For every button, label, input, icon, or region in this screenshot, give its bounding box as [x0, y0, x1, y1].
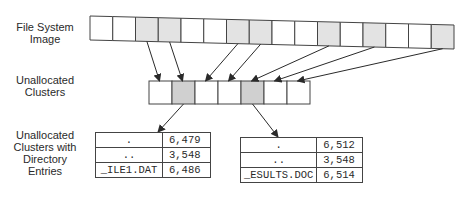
entry-cluster: 6,479 — [163, 133, 211, 148]
cluster-cell — [295, 21, 318, 46]
arrow — [229, 44, 261, 81]
cluster-cell-shaded — [227, 19, 250, 44]
cluster-cell — [386, 23, 409, 48]
entry-name: _ILE1.DAT — [96, 163, 163, 178]
cluster-diagram — [0, 0, 472, 208]
cluster-cell-shaded — [249, 20, 272, 45]
table-row: _ESULTS.DOC 6,514 — [241, 168, 363, 183]
cluster-cell-shaded — [318, 22, 341, 47]
cluster-cell-shaded — [363, 23, 386, 48]
cluster-cell — [272, 21, 295, 46]
file-system-image-strip — [90, 16, 454, 49]
unallocated-cell — [149, 81, 172, 104]
entry-cluster: 6,486 — [163, 163, 211, 178]
entry-cluster: 6,512 — [317, 138, 363, 153]
table-row: .. 3,548 — [241, 153, 363, 168]
entry-name: . — [96, 133, 163, 148]
entry-name: .. — [96, 148, 163, 163]
entry-name: .. — [241, 153, 317, 168]
table-row: . 6,512 — [241, 138, 363, 153]
unallocated-cell-shaded — [241, 81, 264, 104]
entry-name: . — [241, 138, 317, 153]
entry-cluster: 6,514 — [317, 168, 363, 183]
table-row: .. 3,548 — [96, 148, 211, 163]
unallocated-clusters-strip — [149, 81, 310, 104]
cluster-cell — [409, 24, 432, 49]
cluster-cell — [113, 17, 136, 42]
unallocated-cell-shaded — [172, 81, 195, 104]
directory-entries-table-2: . 6,512 .. 3,548 _ESULTS.DOC 6,514 — [240, 137, 363, 183]
cluster-cell — [181, 18, 204, 43]
directory-entries-table-1: . 6,479 .. 3,548 _ILE1.DAT 6,486 — [95, 132, 211, 178]
unallocated-cell — [218, 81, 241, 104]
cluster-cell — [90, 16, 113, 41]
arrow — [253, 104, 279, 137]
arrow — [170, 42, 183, 81]
unallocated-cell — [264, 81, 287, 104]
arrow — [298, 49, 443, 81]
cluster-cell-shaded — [158, 18, 181, 43]
arrow — [158, 104, 184, 132]
cluster-cell-shaded — [136, 17, 159, 42]
arrow — [147, 41, 160, 81]
unallocated-cell — [287, 81, 310, 104]
cluster-cell — [204, 19, 227, 44]
entry-name: _ESULTS.DOC — [241, 168, 317, 183]
entry-cluster: 3,548 — [317, 153, 363, 168]
table-row: . 6,479 — [96, 133, 211, 148]
unallocated-cell — [195, 81, 218, 104]
cluster-cell-shaded — [431, 24, 454, 49]
table-row: _ILE1.DAT 6,486 — [96, 163, 211, 178]
entry-cluster: 3,548 — [163, 148, 211, 163]
cluster-cell — [340, 22, 363, 47]
